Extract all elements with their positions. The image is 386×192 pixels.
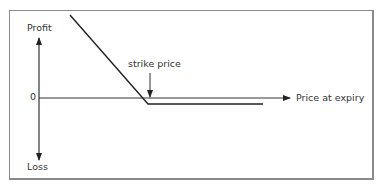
profit-label: Profit xyxy=(27,22,52,33)
x-axis-label: Price at expiry xyxy=(296,92,364,103)
loss-label: Loss xyxy=(27,161,48,172)
zero-label: 0 xyxy=(30,91,36,102)
strike-price-label: strike price xyxy=(128,58,181,69)
